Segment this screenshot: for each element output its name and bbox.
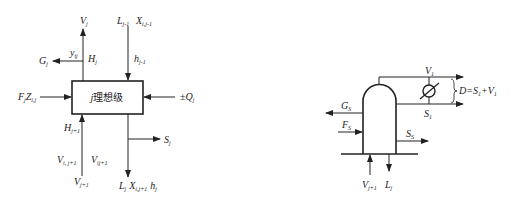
stage-label: j理想级 — [89, 91, 124, 103]
distillate-brace — [451, 79, 457, 103]
liquid-side-draw-label: Sj — [164, 134, 171, 146]
vapor-in-label: Vj+1 — [74, 176, 89, 188]
vapor-side-label: GS — [341, 100, 351, 112]
vapor-in-label-right: Vj+1 — [362, 179, 377, 191]
reflux-draw-label: S1 — [424, 108, 432, 120]
column-top-diagram: V1 S1 D=S1+V1 GS FS SS Vj+1 Lj — [326, 65, 497, 191]
distillate-equation: D=S1+V1 — [458, 85, 497, 97]
liquid-in-comp-label: Xi,j-1 — [135, 15, 152, 27]
vapor-in-enthalpy-label: Hj+1 — [63, 122, 80, 134]
column-body — [363, 85, 396, 154]
vapor-in-comp2-label: Vij+1 — [91, 154, 108, 166]
heat-label: ±Qj — [180, 91, 195, 103]
overhead-vapor-label: V1 — [425, 65, 434, 77]
diagram-canvas: j理想级 Vj Hj Gj yij Lj-1 Xi,j-1 hj-1 FjZi,… — [0, 0, 510, 198]
feed-label-right: FS — [341, 119, 351, 131]
vapor-in-comp-label: Vi, j+1 — [57, 154, 77, 166]
ideal-stage-diagram: j理想级 Vj Hj Gj yij Lj-1 Xi,j-1 hj-1 FjZi,… — [17, 15, 195, 192]
vapor-side-comp-label: yij — [69, 47, 78, 59]
vapor-enthalpy-out-label: Hj — [87, 53, 97, 65]
liquid-in-enthalpy-label: hj-1 — [134, 53, 146, 65]
liquid-out-label: LjXi,j+1hj — [118, 180, 157, 192]
vapor-side-draw-label: Gj — [39, 55, 48, 67]
overhead-vapor-line — [379, 77, 463, 85]
liquid-out-label-right: Lj — [384, 179, 393, 191]
liquid-in-label: Lj-1 — [116, 15, 129, 27]
feed-label: FjZi,j — [17, 91, 37, 103]
liquid-side-label: SS — [406, 128, 414, 140]
vapor-out-label: Vj — [80, 15, 88, 27]
